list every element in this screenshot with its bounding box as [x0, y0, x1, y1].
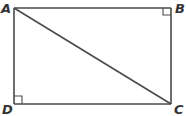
vertex-label-c: C [174, 102, 184, 116]
vertex-label-d: D [2, 102, 13, 116]
right-angle-mark-d [14, 96, 22, 104]
vertex-label-b: B [175, 1, 185, 16]
diagonal-ac [14, 8, 171, 104]
rectangle-diagram: A B C D [0, 0, 186, 116]
right-angle-mark-b [163, 8, 171, 15]
vertex-label-a: A [0, 1, 11, 16]
